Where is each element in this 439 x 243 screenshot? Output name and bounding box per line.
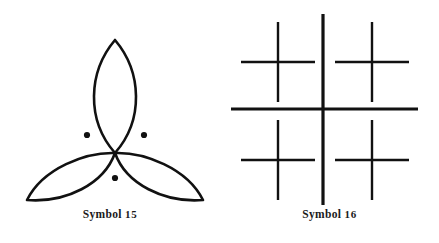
caption-label-15: Symbol xyxy=(83,208,122,220)
small-cross-bottom-left xyxy=(241,120,315,200)
trefoil-three-petals-with-three-dots-icon xyxy=(0,0,220,243)
caption-number-16: 16 xyxy=(345,208,357,220)
petal-top xyxy=(94,40,136,153)
figure-symbol-15: Symbol 15 xyxy=(0,0,220,243)
large-cross-with-four-quadrant-crosses-icon xyxy=(220,0,439,243)
small-cross-top-left xyxy=(241,22,315,102)
figure-symbol-16: Symbol 16 xyxy=(220,0,439,243)
symbol-plate: Symbol 15 xyxy=(0,0,439,243)
small-cross-top-right xyxy=(335,22,409,102)
dot-bottom xyxy=(112,175,118,181)
dot-left xyxy=(84,132,90,138)
main-cross xyxy=(231,14,418,205)
caption-symbol-15: Symbol 15 xyxy=(0,208,220,220)
petal-lower-right xyxy=(115,153,203,200)
small-cross-bottom-right xyxy=(335,120,409,200)
dot-right xyxy=(141,132,147,138)
petal-lower-left xyxy=(27,153,115,200)
caption-number-15: 15 xyxy=(125,208,137,220)
caption-label-16: Symbol xyxy=(302,208,341,220)
caption-symbol-16: Symbol 16 xyxy=(220,208,439,220)
